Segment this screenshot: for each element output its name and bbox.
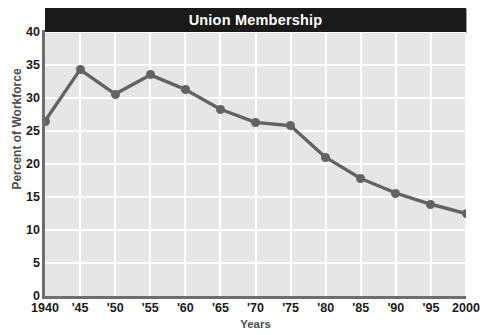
data-point-marker: [216, 105, 225, 114]
page-title: Union Membership: [189, 12, 323, 28]
x-tick-label: '75: [282, 301, 299, 315]
x-axis-spine: [42, 296, 466, 299]
data-point-marker: [391, 189, 400, 198]
x-tick-label: '45: [72, 301, 89, 315]
plot-area: [45, 32, 466, 296]
x-tick-label: '90: [387, 301, 404, 315]
x-tick-label: 1940: [31, 301, 59, 315]
x-tick-label: '65: [212, 301, 229, 315]
y-tick-label: 10: [2, 223, 40, 237]
x-tick-label: '80: [317, 301, 334, 315]
x-tick-label: '85: [352, 301, 369, 315]
data-point-marker: [181, 85, 190, 94]
x-tick-label: '70: [247, 301, 264, 315]
y-tick-label: 5: [2, 256, 40, 270]
data-point-marker: [111, 90, 120, 99]
y-tick-label: 40: [2, 25, 40, 39]
data-point-marker: [76, 65, 85, 74]
data-point-marker: [321, 153, 330, 162]
x-axis-title: Years: [45, 318, 466, 330]
x-tick-label: '95: [422, 301, 439, 315]
x-tick-label: '55: [142, 301, 159, 315]
series-polyline: [45, 70, 466, 214]
x-tick-label: 2000: [452, 301, 480, 315]
y-axis-title: Percent of Workforce: [10, 54, 24, 204]
union-membership-chart: Union Membership 0510152025303540 1940'4…: [0, 0, 482, 335]
chart-title-banner: Union Membership: [45, 8, 466, 32]
x-tick-label: '60: [177, 301, 194, 315]
data-point-marker: [251, 118, 260, 127]
data-point-marker: [45, 117, 50, 126]
x-tick-label: '50: [107, 301, 124, 315]
data-series-line: [45, 32, 466, 296]
